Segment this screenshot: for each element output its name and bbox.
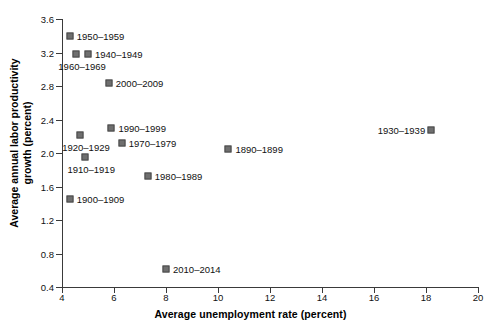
data-point-label: 1990–1999 — [118, 122, 166, 133]
x-tick-label: 4 — [59, 292, 64, 303]
y-axis-title: Average annual labor productivity growth… — [8, 23, 34, 263]
data-point[interactable] — [144, 172, 151, 179]
data-point[interactable] — [163, 265, 170, 272]
scatter-chart: 0.40.81.21.62.02.42.83.23.6 468101214161… — [0, 0, 501, 327]
x-tick-label: 8 — [163, 292, 168, 303]
data-point-label: 1930–1939 — [378, 124, 426, 135]
data-point[interactable] — [225, 145, 232, 152]
data-point-label: 1900–1909 — [77, 194, 125, 205]
x-axis-title: Average unemployment rate (percent) — [0, 308, 501, 320]
x-tick-label: 20 — [473, 292, 484, 303]
x-tick-label: 16 — [369, 292, 380, 303]
data-point-label: 2000–2009 — [116, 78, 164, 89]
x-tick-label: 18 — [421, 292, 432, 303]
x-tick-label: 12 — [265, 292, 276, 303]
x-tick-label: 14 — [317, 292, 328, 303]
y-tick-label: 0.4 — [6, 282, 54, 293]
data-point[interactable] — [428, 126, 435, 133]
data-point[interactable] — [66, 196, 73, 203]
data-point[interactable] — [105, 80, 112, 87]
data-point-label: 1960–1969 — [58, 61, 106, 72]
data-point-label: 1950–1959 — [77, 30, 125, 41]
data-point-label: 1910–1919 — [67, 164, 115, 175]
data-point[interactable] — [118, 139, 125, 146]
data-points-layer: 1950–19591940–19491960–19692000–20091990… — [62, 19, 478, 287]
y-axis-title-line2: growth (percent) — [21, 102, 33, 185]
data-point-label: 1890–1899 — [235, 143, 283, 154]
data-point-label: 1970–1979 — [129, 137, 177, 148]
x-tick-label: 10 — [213, 292, 224, 303]
data-point[interactable] — [108, 124, 115, 131]
data-point-label: 1980–1989 — [155, 170, 203, 181]
y-axis-title-line1: Average annual labor productivity — [8, 58, 20, 227]
data-point-label: 1940–1949 — [95, 49, 143, 60]
data-point[interactable] — [73, 51, 80, 58]
x-tick-label: 6 — [111, 292, 116, 303]
data-point[interactable] — [77, 131, 84, 138]
data-point[interactable] — [82, 154, 89, 161]
data-point[interactable] — [66, 32, 73, 39]
data-point-label: 2010–2014 — [173, 263, 221, 274]
data-point[interactable] — [85, 51, 92, 58]
data-point-label: 1920–1929 — [62, 141, 110, 152]
